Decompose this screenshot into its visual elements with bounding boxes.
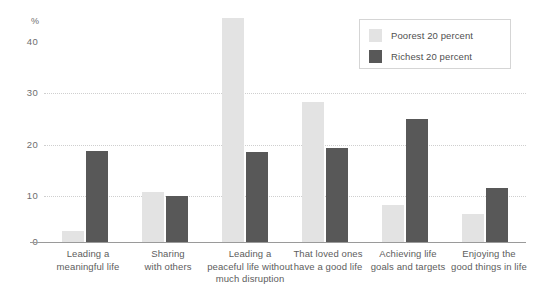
bar-poorest-6 bbox=[462, 214, 484, 242]
bar-richest-5 bbox=[406, 119, 428, 242]
category-label-6: Enjoying the good things in life bbox=[437, 248, 540, 273]
legend-label-poorest: Poorest 20 percent bbox=[391, 30, 473, 41]
bar-group-4 bbox=[296, 16, 360, 242]
x-axis-baseline bbox=[30, 242, 526, 243]
y-tick-20: 20 bbox=[8, 139, 38, 150]
bar-poorest-1 bbox=[62, 231, 84, 242]
bar-poorest-3 bbox=[222, 18, 244, 242]
legend-item-richest: Richest 20 percent bbox=[369, 49, 472, 63]
bar-richest-4 bbox=[326, 148, 348, 242]
bar-poorest-4 bbox=[302, 102, 324, 242]
bar-group-1 bbox=[56, 16, 120, 242]
y-axis-unit-label: % bbox=[31, 16, 39, 26]
legend-item-poorest: Poorest 20 percent bbox=[369, 28, 473, 42]
bar-richest-2 bbox=[166, 196, 188, 242]
bar-richest-6 bbox=[486, 188, 508, 242]
y-tick-10: 10 bbox=[8, 190, 38, 201]
bar-poorest-5 bbox=[382, 205, 404, 242]
y-tick-30: 30 bbox=[8, 87, 38, 98]
category-label-6-line-1: Enjoying the bbox=[437, 248, 540, 261]
legend-label-richest: Richest 20 percent bbox=[391, 51, 472, 62]
bar-richest-3 bbox=[246, 152, 268, 242]
x-axis-category-labels: Leading a meaningful life Sharing with o… bbox=[46, 248, 525, 288]
bar-richest-1 bbox=[86, 151, 108, 242]
chart-legend: Poorest 20 percent Richest 20 percent bbox=[359, 19, 511, 69]
category-label-6-line-2: good things in life bbox=[437, 261, 540, 274]
bar-chart: % 40 30 20 10 0 bbox=[0, 0, 540, 304]
bar-group-2 bbox=[136, 16, 200, 242]
legend-swatch-poorest-icon bbox=[369, 29, 382, 42]
y-tick-40: 40 bbox=[8, 36, 38, 47]
category-label-3-line-3: much disruption bbox=[195, 273, 305, 286]
bar-group-3 bbox=[216, 16, 280, 242]
legend-swatch-richest-icon bbox=[369, 50, 382, 63]
bar-poorest-2 bbox=[142, 192, 164, 242]
